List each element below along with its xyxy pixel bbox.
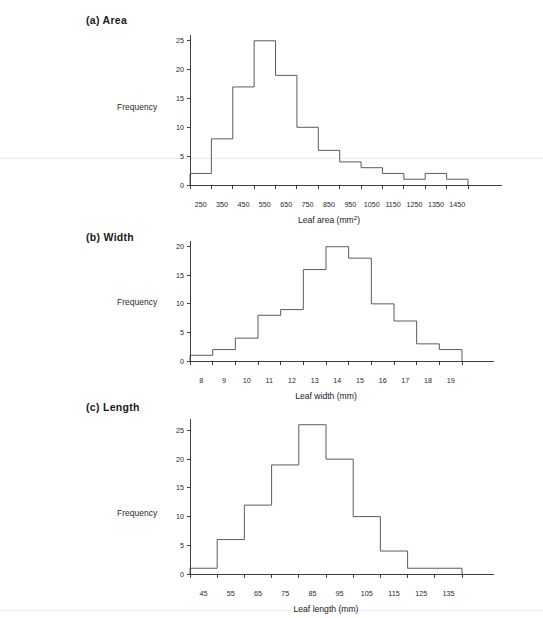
y-axis-label-length: Frequency <box>117 508 157 518</box>
x-tick-label: 1350 <box>428 200 444 209</box>
x-tick-label: 115 <box>388 589 399 598</box>
y-tick-label: 20 <box>176 65 184 74</box>
panel-title-width: (b) Width <box>86 231 134 243</box>
x-tick-label: 1150 <box>385 200 400 209</box>
x-tick-label: 12 <box>288 376 296 385</box>
x-axis-title: Leaf length (mm) <box>294 604 359 614</box>
x-tick-label: 14 <box>333 376 341 385</box>
y-tick-label: 20 <box>176 455 184 464</box>
y-tick-label: 0 <box>180 570 184 579</box>
x-tick-label: 650 <box>280 200 292 209</box>
x-tick-label: 17 <box>401 376 409 385</box>
x-tick-label: 250 <box>195 200 207 209</box>
y-tick-label: 5 <box>180 152 184 161</box>
histogram-outline <box>190 425 462 574</box>
panel-title-length: (c) Length <box>86 401 140 413</box>
x-tick-label: 10 <box>243 376 251 385</box>
x-tick-label: 125 <box>415 589 427 598</box>
panel-width: (b) Width 051015208910111213141516171819… <box>0 215 543 393</box>
histogram-width: 051015208910111213141516171819Leaf width… <box>170 231 520 391</box>
y-tick-label: 15 <box>176 94 184 103</box>
y-tick-label: 25 <box>176 36 184 45</box>
y-tick-label: 0 <box>180 357 184 366</box>
x-tick-label: 55 <box>227 589 235 598</box>
x-tick-label: 135 <box>442 589 454 598</box>
histogram-length: 0510152025455565758595105115125135Leaf l… <box>170 409 520 609</box>
y-axis-label-width: Frequency <box>117 297 157 307</box>
x-tick-label: 85 <box>308 589 316 598</box>
y-tick-label: 5 <box>180 541 184 550</box>
histogram-outline <box>190 247 462 361</box>
panel-area: (a) Area Frequency 051015202525035045055… <box>0 0 543 215</box>
y-tick-label: 10 <box>176 512 184 521</box>
y-tick-label: 20 <box>176 242 184 251</box>
y-tick-label: 15 <box>176 271 184 280</box>
x-tick-label: 65 <box>254 589 262 598</box>
x-tick-label: 75 <box>281 589 289 598</box>
x-tick-label: 9 <box>222 376 226 385</box>
panel-title-area: (a) Area <box>86 14 127 26</box>
x-tick-label: 1450 <box>449 200 465 209</box>
x-tick-label: 550 <box>259 200 271 209</box>
x-tick-label: 1050 <box>364 200 380 209</box>
x-tick-label: 18 <box>424 376 432 385</box>
plot-area-1: 051015208910111213141516171819Leaf width… <box>176 241 494 401</box>
y-axis-label-area: Frequency <box>117 102 157 112</box>
x-tick-label: 105 <box>361 589 373 598</box>
histogram-outline <box>190 41 468 185</box>
y-tick-label: 0 <box>180 181 184 190</box>
x-tick-label: 1250 <box>407 200 423 209</box>
x-tick-label: 45 <box>200 589 208 598</box>
x-tick-label: 950 <box>344 200 356 209</box>
histogram-area: 0510152025250350450550650750850950105011… <box>170 25 520 215</box>
x-tick-label: 16 <box>379 376 387 385</box>
y-tick-label: 10 <box>176 123 184 132</box>
panel-length: (c) Length Frequency 0510152025455565758… <box>0 393 543 618</box>
y-tick-label: 25 <box>176 426 184 435</box>
x-tick-label: 450 <box>237 200 249 209</box>
x-tick-label: 850 <box>323 200 335 209</box>
y-tick-label: 10 <box>176 299 184 308</box>
leaf-measurements-figure: (a) Area Frequency 051015202525035045055… <box>0 0 543 618</box>
y-tick-label: 5 <box>180 328 184 337</box>
x-tick-label: 350 <box>216 200 228 209</box>
plot-area-0: 0510152025250350450550650750850950105011… <box>176 35 502 225</box>
x-tick-label: 19 <box>447 376 455 385</box>
y-tick-label: 15 <box>176 483 184 492</box>
plot-area-2: 0510152025455565758595105115125135Leaf l… <box>176 419 494 614</box>
x-tick-label: 95 <box>336 589 344 598</box>
x-tick-label: 8 <box>199 376 203 385</box>
x-tick-label: 15 <box>356 376 364 385</box>
x-tick-label: 13 <box>311 376 319 385</box>
x-tick-label: 750 <box>302 200 314 209</box>
x-tick-label: 11 <box>266 376 273 385</box>
